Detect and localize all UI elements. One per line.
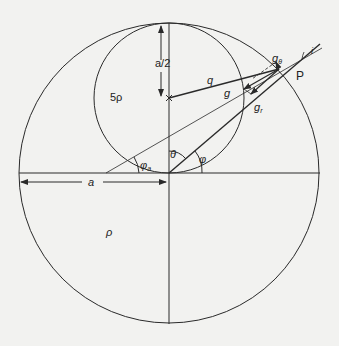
a-label: a bbox=[88, 176, 94, 188]
gr-label: gr bbox=[254, 101, 263, 114]
theta-label: θ bbox=[170, 148, 176, 160]
i-label: i bbox=[311, 46, 314, 56]
gravity-diagram: a/2 5ρ ρ q g gr gθ P i a φa θ φ bbox=[0, 0, 339, 346]
inner-density-label: 5ρ bbox=[110, 91, 122, 103]
phi-a-line bbox=[106, 48, 322, 173]
outer-density-label: ρ bbox=[105, 226, 112, 238]
g-label: g bbox=[224, 87, 231, 99]
gtheta-label: gθ bbox=[272, 52, 282, 65]
half-a-label: a/2 bbox=[155, 57, 170, 69]
phi-a-label: φa bbox=[140, 159, 151, 172]
phi-label: φ bbox=[199, 153, 206, 165]
q-label: q bbox=[207, 74, 214, 86]
radius-line bbox=[169, 44, 320, 173]
point-p-label: P bbox=[296, 69, 304, 83]
